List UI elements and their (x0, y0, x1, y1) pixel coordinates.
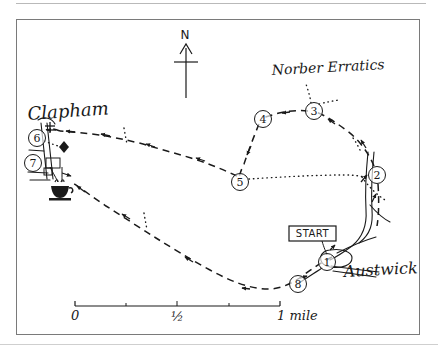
building-block-a (46, 158, 60, 168)
waypoint-markers: 1 2 3 4 5 6 7 (25, 103, 386, 293)
waypoint-7-number: 7 (30, 157, 37, 170)
waypoint-5-number: 5 (237, 176, 244, 189)
waypoint-6-number: 6 (34, 132, 41, 145)
place-labels: Clapham Austwick Norber Erratics (27, 56, 418, 281)
dotted-path-north-mid (124, 128, 127, 144)
direction-arrow-w-2 (146, 144, 155, 147)
direction-arrow-norber-1 (361, 140, 366, 148)
place-label-clapham: Clapham (27, 97, 109, 124)
waypoint-1-number: 1 (324, 256, 331, 269)
diamond-marker-icon (59, 141, 69, 153)
direction-arrow-sw-2 (242, 288, 250, 289)
route-return-five-to-clapham (60, 131, 237, 176)
dotted-path-five-to-two (249, 175, 364, 179)
waypoint-1: 1 (319, 254, 336, 271)
start-marker: START (289, 226, 336, 255)
dotted-path-three-east (319, 100, 339, 104)
north-arrow: N (174, 28, 198, 98)
waypoint-3-number: 3 (311, 105, 318, 118)
direction-arrow-two-mid (372, 194, 376, 202)
teacup-icon (49, 180, 73, 201)
scale-label-0: 0 (71, 308, 79, 323)
scale-bar: 0 ½ 1 mile (71, 301, 318, 324)
scale-label-half: ½ (171, 309, 184, 324)
road-clapham-cross-2 (28, 172, 48, 173)
map-figure: N Clapham Austwick Norber Erratics START… (0, 0, 438, 351)
church-cross-icon (45, 122, 55, 133)
road-clapham-cross-1 (29, 150, 44, 151)
direction-arrow-sw-5 (77, 186, 85, 192)
direction-arrow-w-4 (66, 131, 75, 132)
waypoint-2-number: 2 (374, 169, 381, 182)
direction-arrow-clapham-exit (62, 173, 71, 176)
place-label-austwick: Austwick (341, 258, 418, 281)
dotted-path-norber-spur (306, 84, 311, 103)
start-marker-label: START (296, 228, 330, 239)
scale-label-one-mile: 1 mile (277, 308, 318, 323)
dotted-path-two-north (353, 138, 360, 150)
waypoint-3: 3 (306, 103, 323, 120)
waypoint-6: 6 (29, 130, 46, 147)
waypoint-5: 5 (232, 174, 249, 191)
road-austwick-main-west (330, 152, 368, 260)
waypoint-2: 2 (369, 167, 386, 184)
waypoint-7: 7 (25, 155, 42, 172)
north-arrow-label: N (181, 28, 190, 42)
waypoint-8: 8 (290, 276, 307, 293)
map-symbols (45, 122, 73, 201)
waypoint-4: 4 (255, 111, 272, 128)
road-austwick-main-spur (370, 205, 390, 222)
route-two-to-one (377, 184, 379, 226)
waypoint-8-number: 8 (295, 278, 302, 291)
waypoint-4-number: 4 (260, 113, 267, 126)
place-label-norber-erratics: Norber Erratics (270, 56, 385, 78)
route-norber-loop-north (316, 112, 374, 166)
dotted-path-south-mid (144, 213, 147, 230)
map-drawing: N Clapham Austwick Norber Erratics START… (0, 0, 438, 351)
direction-arrow-norber-4 (247, 146, 251, 155)
